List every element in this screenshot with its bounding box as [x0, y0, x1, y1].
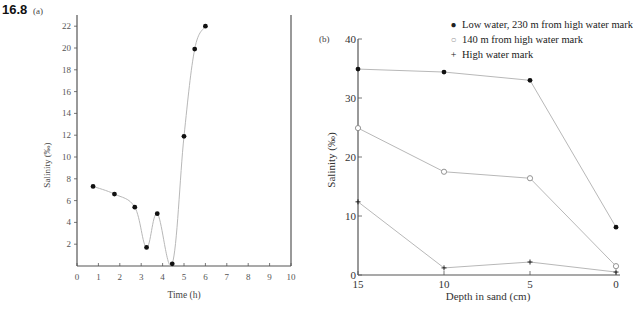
x-tick-label: 9 [267, 272, 272, 282]
data-point [170, 261, 175, 266]
y-tick-label: 10 [345, 210, 357, 222]
y-tick-label: 20 [62, 43, 72, 53]
plus-icon: + [449, 47, 458, 62]
data-point [355, 125, 360, 130]
chart-b-depth-salinity: 151050010203040Depth in sand (cm)Salinit… [325, 33, 620, 303]
x-tick-label: 7 [225, 272, 230, 282]
x-tick-label: 8 [246, 272, 251, 282]
data-point [528, 260, 533, 265]
x-tick-label: 3 [139, 272, 144, 282]
x-tick-label: 0 [75, 272, 80, 282]
data-point [192, 47, 197, 52]
legend-item-high-water: + High water mark [449, 47, 633, 62]
data-point [527, 176, 532, 181]
data-point [442, 70, 447, 75]
y-tick-label: 2 [67, 239, 72, 249]
x-tick-label: 4 [160, 272, 165, 282]
y-tick-label: 12 [62, 130, 71, 140]
y-tick-label: 16 [62, 87, 72, 97]
y-tick-label: 0 [351, 269, 357, 281]
x-tick-label: 1 [96, 272, 101, 282]
filled-circle-icon: ● [449, 17, 458, 32]
data-point [144, 245, 149, 250]
y-tick-label: 40 [345, 33, 357, 45]
data-point [112, 192, 117, 197]
data-point [91, 184, 96, 189]
data-point [528, 78, 533, 83]
x-axis-label: Time (h) [167, 290, 200, 301]
chart-a-time-salinity: 012345678910246810121416182022Time (h)Sa… [42, 15, 296, 301]
y-tick-label: 14 [62, 108, 72, 118]
legend-label: Low water, 230 m from high water mark [462, 17, 633, 32]
data-point [614, 225, 619, 230]
x-tick-label: 10 [287, 272, 297, 282]
data-point [203, 24, 208, 29]
legend-item-140m: ○ 140 m from high water mark [449, 32, 633, 47]
x-tick-label: 10 [439, 278, 451, 290]
series-line [358, 128, 616, 266]
series-line [358, 202, 616, 272]
data-point [356, 67, 361, 72]
x-tick-label: 5 [182, 272, 187, 282]
x-tick-label: 5 [527, 278, 533, 290]
y-axis-label: Salinity (‰) [325, 132, 338, 188]
data-point [441, 169, 446, 174]
y-tick-label: 4 [67, 217, 72, 227]
y-tick-label: 8 [67, 174, 72, 184]
data-point [613, 264, 618, 269]
y-tick-label: 22 [62, 21, 71, 31]
y-tick-label: 20 [345, 151, 357, 163]
legend-label: 140 m from high water mark [462, 32, 583, 47]
data-point [132, 205, 137, 210]
y-tick-label: 10 [62, 152, 72, 162]
x-tick-label: 6 [203, 272, 208, 282]
x-tick-label: 0 [613, 278, 619, 290]
series-line [93, 26, 205, 266]
y-tick-label: 6 [67, 196, 72, 206]
data-point [614, 270, 619, 275]
chart-b-legend: ● Low water, 230 m from high water mark … [449, 17, 633, 62]
y-axis-label: Salinity (‰) [42, 142, 52, 187]
open-circle-icon: ○ [449, 32, 458, 47]
data-point [182, 134, 187, 139]
x-axis-label: Depth in sand (cm) [446, 290, 531, 303]
legend-label: High water mark [462, 47, 533, 62]
legend-item-low-water: ● Low water, 230 m from high water mark [449, 17, 633, 32]
y-tick-label: 18 [62, 65, 72, 75]
y-tick-label: 30 [345, 92, 357, 104]
x-tick-label: 2 [118, 272, 123, 282]
data-point [155, 211, 160, 216]
